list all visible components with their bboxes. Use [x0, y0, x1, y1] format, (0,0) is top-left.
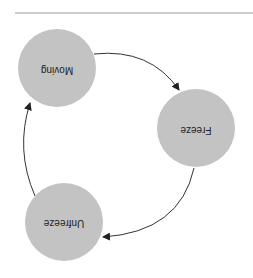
state-diagram: Moving Freeze Unfreeze	[0, 0, 253, 278]
edge-freeze-to-unfreeze	[103, 168, 194, 237]
node-freeze-label: Freeze	[180, 125, 212, 136]
node-freeze: Freeze	[157, 89, 235, 167]
node-unfreeze-label: Unfreeze	[43, 218, 84, 229]
node-unfreeze: Unfreeze	[25, 183, 103, 261]
edge-moving-to-freeze	[94, 53, 179, 90]
edge-unfreeze-to-moving	[24, 103, 35, 196]
node-moving: Moving	[18, 29, 96, 107]
node-moving-label: Moving	[41, 65, 73, 76]
